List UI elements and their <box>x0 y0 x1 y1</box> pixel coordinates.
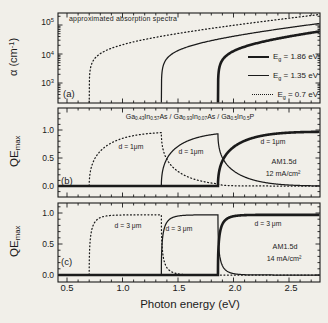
panel-b-spectrum-annotation: AM1.5d <box>272 158 297 166</box>
panel-b-letter: (b) <box>61 176 73 186</box>
panel-b-current-annotation: 12 mA/cm² <box>266 170 301 178</box>
panel-c-y-axis-label: QEmax <box>8 181 23 301</box>
xtick-2-0: 2.0 <box>228 283 241 293</box>
panel-b-d-label-top-cell: d = 1μm <box>261 138 286 145</box>
legend-label-1-86: Eg = 1.86 eV <box>273 52 318 62</box>
legend-row-3: Eg = 0.7 eV <box>248 85 318 104</box>
panel-a-title: approximated absorption spectra <box>69 15 177 22</box>
legend-label-0-7: Eg = 0.7 eV <box>277 90 318 100</box>
panel-c-ytick-0: 0.0 <box>42 271 54 280</box>
panel-c-spectrum-annotation: AM1.5d <box>273 243 298 251</box>
panel-a-ytick-1e4: 104 <box>41 50 54 60</box>
panel-c-d-label-top-cell: d = 3 μm <box>255 220 282 227</box>
panel-b-d-label-middle-cell: d = 1μm <box>179 148 204 155</box>
legend-line-thin <box>248 75 269 76</box>
panel-a-ytick-1e3: 103 <box>41 78 54 88</box>
panel-a-ytick-1e5: 105 <box>41 17 54 27</box>
legend-label-1-35: Eg = 1.35 eV <box>273 71 318 81</box>
panel-b-ytick-0: 0.0 <box>42 182 54 191</box>
legend-line-dotted <box>252 94 273 95</box>
panel-b-ytick-05: 0.5 <box>42 154 54 163</box>
legend-row-2: Eg = 1.35 eV <box>248 66 318 85</box>
panel-c-d-label-middle-cell: d = 3 μm <box>166 225 193 232</box>
xtick-1-5: 1.5 <box>172 283 185 293</box>
panel-c-letter: (c) <box>61 257 72 267</box>
panel-b-ytick-1: 1.0 <box>42 126 54 135</box>
x-axis-label: Photon energy (eV) <box>140 298 240 310</box>
panel-b-stack-formula: Ga0.43In0.57As / Ga0.93In0.07As / Ga0.5I… <box>126 113 254 121</box>
panel-a-legend: Eg = 1.86 eV Eg = 1.35 eV Eg = 0.7 eV <box>248 47 318 104</box>
panel-c-current-annotation: 14 mA/cm² <box>267 255 302 263</box>
xtick-0-5: 0.5 <box>60 283 73 293</box>
legend-line-thick <box>248 56 269 58</box>
xtick-1-0: 1.0 <box>116 283 129 293</box>
panel-c-d-label-bottom-cell: d = 3 μm <box>115 222 142 229</box>
figure-absorption-and-qe: approximated absorption spectra (a) α (c… <box>0 0 328 323</box>
panel-c-ytick-05: 0.5 <box>42 240 54 249</box>
xtick-2-5: 2.5 <box>284 283 297 293</box>
legend-row-1: Eg = 1.86 eV <box>248 47 318 66</box>
panel-b-d-label-bottom-cell: d = 1μm <box>119 143 144 150</box>
panel-c-ytick-1: 1.0 <box>42 209 54 218</box>
panel-a-letter: (a) <box>63 89 75 99</box>
